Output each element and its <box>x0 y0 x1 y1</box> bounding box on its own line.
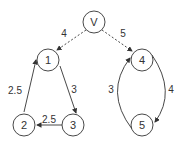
node-label-2: 2 <box>21 119 27 131</box>
node-2: 2 <box>13 114 35 136</box>
node-label-1: 1 <box>45 54 51 66</box>
node-4: 4 <box>131 49 153 71</box>
graph-diagram: 4 5 3 2.5 2.5 4 3 V 1 2 3 4 5 <box>0 0 182 145</box>
edge-label-3-2: 2.5 <box>42 114 56 125</box>
edge-label-2-1: 2.5 <box>8 85 22 96</box>
edge-label-v-1: 4 <box>61 28 67 39</box>
node-label-3: 3 <box>70 119 76 131</box>
edge-5-4 <box>117 58 132 129</box>
node-v: V <box>83 11 105 33</box>
node-label-5: 5 <box>139 119 145 131</box>
edge-label-5-4: 3 <box>108 84 114 95</box>
node-5: 5 <box>131 114 153 136</box>
edge-label-4-5: 4 <box>168 84 174 95</box>
edge-4-5 <box>152 55 165 122</box>
edge-2-1 <box>24 60 36 112</box>
node-label-4: 4 <box>139 54 145 66</box>
node-1: 1 <box>37 49 59 71</box>
edge-v-4 <box>102 30 132 51</box>
edge-label-1-3: 3 <box>71 84 77 95</box>
node-label-v: V <box>90 16 98 28</box>
edge-label-v-4: 5 <box>120 28 126 39</box>
node-3: 3 <box>62 114 84 136</box>
